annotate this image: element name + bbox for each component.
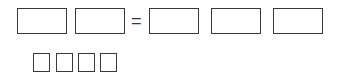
right-box-2[interactable] [211, 8, 261, 34]
left-box-1[interactable] [17, 8, 67, 34]
answer-box-1[interactable] [33, 53, 50, 72]
answer-box-2[interactable] [56, 53, 73, 72]
right-box-1[interactable] [149, 8, 199, 34]
answer-box-4[interactable] [100, 53, 117, 72]
answer-box-3[interactable] [78, 53, 95, 72]
right-box-3[interactable] [273, 8, 323, 34]
left-box-2[interactable] [75, 8, 125, 34]
equals-sign: = [131, 11, 142, 31]
